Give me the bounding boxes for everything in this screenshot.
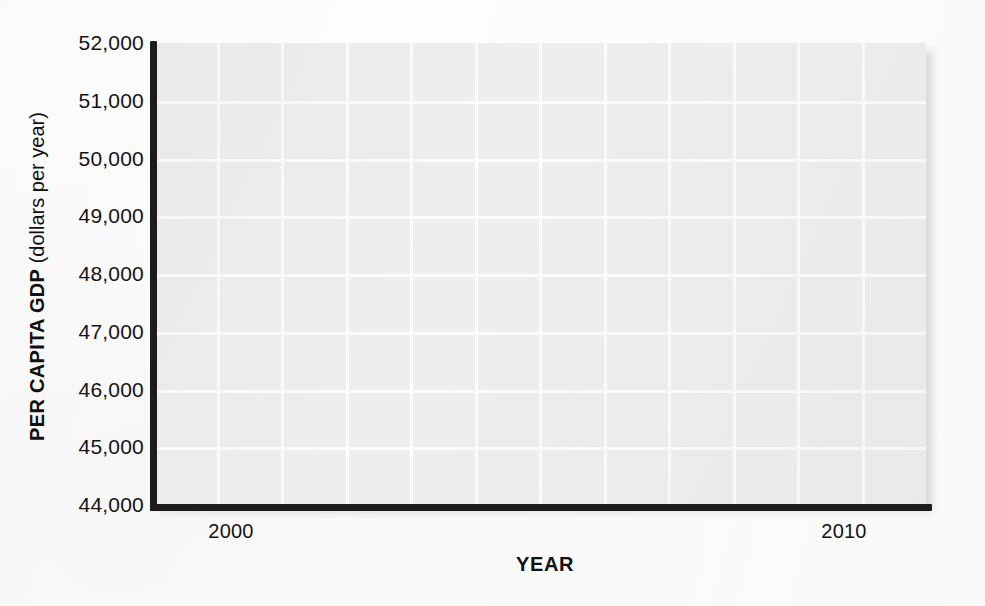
- horizontal-gridline: [152, 390, 926, 393]
- y-axis-tick-label: 47,000: [44, 321, 144, 342]
- y-axis-title-units: (dollars per year): [26, 112, 48, 263]
- chart-figure: 52,00051,00050,00049,00048,00047,00046,0…: [0, 0, 985, 606]
- y-axis-tick-label: 51,000: [44, 90, 144, 111]
- y-axis-tick-label: 44,000: [44, 494, 144, 515]
- y-axis-tick-label: 52,000: [44, 32, 144, 53]
- y-axis-tick-label: 45,000: [44, 436, 144, 457]
- horizontal-gridline: [152, 101, 926, 104]
- horizontal-gridline: [152, 216, 926, 219]
- y-axis-tick-labels: 52,00051,00050,00049,00048,00047,00046,0…: [36, 0, 144, 606]
- plot-area[interactable]: [152, 43, 926, 505]
- y-axis-title: PER CAPITA GDP (dollars per year): [26, 57, 49, 497]
- y-axis-tick-label: 50,000: [44, 148, 144, 169]
- x-axis-tick-label-2000: 2000: [186, 521, 276, 541]
- horizontal-gridline: [152, 332, 926, 335]
- horizontal-gridline: [152, 447, 926, 450]
- x-axis-tick-label-2010: 2010: [799, 521, 889, 541]
- y-axis-tick-label: 48,000: [44, 263, 144, 284]
- x-axis-line: [150, 504, 932, 511]
- y-axis-tick-label: 49,000: [44, 205, 144, 226]
- horizontal-gridline: [152, 274, 926, 277]
- y-axis-tick-label: 46,000: [44, 379, 144, 400]
- horizontal-gridline: [152, 159, 926, 162]
- y-axis-title-bold: PER CAPITA GDP: [26, 269, 48, 441]
- y-axis-line: [150, 41, 157, 511]
- x-axis-title: YEAR: [0, 553, 985, 576]
